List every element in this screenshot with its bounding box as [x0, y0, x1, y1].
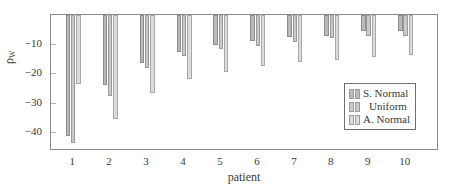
legend-swatch-icon — [355, 89, 360, 99]
y-tick-label: −40 — [25, 126, 42, 137]
x-tick-mark — [221, 15, 222, 20]
x-tick-label: 7 — [291, 155, 297, 167]
x-tick-label: 9 — [365, 155, 371, 167]
legend: S. NormalUniformA. Normal — [344, 83, 416, 130]
x-axis-title: patient — [50, 170, 438, 185]
bar — [182, 15, 187, 56]
bar — [187, 15, 192, 79]
x-tick-mark — [73, 15, 74, 20]
bar — [113, 15, 118, 119]
y-axis-tick-labels: −10−20−30−40 — [0, 14, 46, 150]
x-tick-label: 3 — [143, 155, 149, 167]
legend-swatch-icon — [349, 102, 354, 112]
bar — [398, 15, 403, 31]
legend-label: S. Normal — [363, 88, 408, 99]
legend-item: Uniform — [349, 100, 410, 113]
bar — [219, 15, 224, 49]
bar — [145, 15, 150, 68]
legend-label: A. Normal — [363, 114, 410, 125]
x-tick-label: 1 — [69, 155, 75, 167]
legend-swatch-icon — [355, 115, 360, 125]
x-tick-mark — [295, 15, 296, 20]
bar — [213, 15, 218, 45]
bar — [372, 15, 377, 57]
bar — [250, 15, 255, 41]
x-tick-mark — [332, 15, 333, 20]
bar — [324, 15, 329, 36]
x-tick-label: 5 — [217, 155, 223, 167]
bar — [298, 15, 303, 62]
bar — [66, 15, 71, 136]
x-tick-mark — [110, 15, 111, 20]
y-tick-label: −10 — [25, 38, 42, 49]
x-tick-label: 10 — [399, 155, 410, 167]
x-tick-mark — [406, 15, 407, 20]
x-tick-label: 2 — [106, 155, 112, 167]
x-tick-label: 6 — [254, 155, 260, 167]
bar — [76, 15, 81, 84]
bar — [261, 15, 266, 66]
legend-label: Uniform — [363, 101, 407, 112]
legend-item: A. Normal — [349, 113, 410, 126]
y-tick-mark — [51, 73, 56, 74]
y-tick-mark — [51, 132, 56, 133]
y-tick-mark — [51, 103, 56, 104]
bar — [150, 15, 155, 93]
bar — [287, 15, 292, 37]
bar — [335, 15, 340, 60]
y-tick-label: −30 — [25, 97, 42, 108]
legend-swatch-icon — [349, 89, 354, 99]
y-tick-mark — [51, 44, 56, 45]
bar — [361, 15, 366, 31]
x-axis-tick-labels: 12345678910 — [50, 152, 438, 168]
legend-swatch-icon — [349, 115, 354, 125]
legend-swatch-icon — [355, 102, 360, 112]
x-tick-mark — [147, 15, 148, 20]
x-tick-label: 4 — [180, 155, 186, 167]
bar — [177, 15, 182, 52]
x-tick-label: 8 — [328, 155, 334, 167]
bar — [409, 15, 414, 55]
chart-figure: ρW −10−20−30−40 12345678910 patient S. N… — [0, 0, 456, 191]
bar — [103, 15, 108, 85]
x-tick-mark — [184, 15, 185, 20]
y-tick-label: −20 — [25, 67, 42, 78]
x-tick-mark — [369, 15, 370, 20]
bar — [140, 15, 145, 63]
legend-item: S. Normal — [349, 87, 410, 100]
bar — [108, 15, 113, 96]
bar — [71, 15, 76, 143]
bar — [224, 15, 229, 72]
x-tick-mark — [258, 15, 259, 20]
